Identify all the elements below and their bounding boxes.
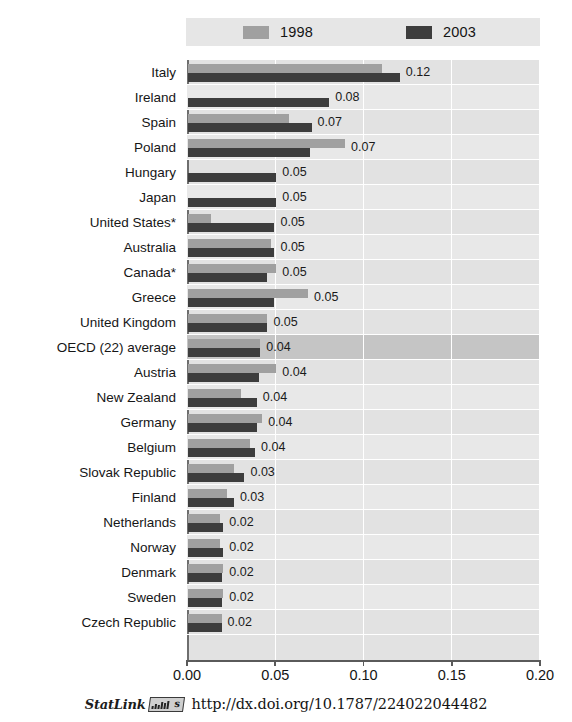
bar-2003: [188, 523, 223, 532]
bar-1998: [188, 589, 223, 598]
bar-value-label: 0.04: [261, 435, 285, 460]
bar-value-label: 0.04: [282, 360, 306, 385]
category-label: United States*: [0, 210, 182, 235]
bar-1998: [188, 239, 271, 248]
category-label: Poland: [0, 135, 182, 160]
category-label: Hungary: [0, 160, 182, 185]
bar-2003: [188, 573, 222, 582]
bar-2003: [188, 123, 312, 132]
x-axis-tick-label: 0.10: [349, 667, 377, 683]
legend-item-1998: 1998: [243, 18, 313, 46]
bar-value-label: 0.02: [228, 610, 252, 635]
bar-1998: [188, 464, 234, 473]
bar-value-label: 0.03: [240, 485, 264, 510]
category-label: Norway: [0, 535, 182, 560]
bar-1998: [188, 564, 223, 573]
category-label: New Zealand: [0, 385, 182, 410]
bar-2003: [188, 298, 274, 307]
bar-value-label: 0.05: [273, 310, 297, 335]
bar-value-label: 0.07: [351, 135, 375, 160]
category-label: Canada*: [0, 260, 182, 285]
bar-2003: [188, 548, 223, 557]
bar-2003: [188, 448, 255, 457]
category-label: Italy: [0, 60, 182, 85]
category-label: Japan: [0, 185, 182, 210]
category-label: Spain: [0, 110, 182, 135]
bar-2003: [188, 198, 276, 207]
bar-value-label: 0.07: [318, 110, 342, 135]
bar-1998: [188, 314, 267, 323]
bar-value-label: 0.03: [250, 460, 274, 485]
bar-2003: [188, 73, 400, 82]
gridline: [451, 60, 452, 660]
category-label: Greece: [0, 285, 182, 310]
bar-2003: [188, 148, 310, 157]
bar-2003: [188, 248, 274, 257]
bar-value-label: 0.05: [280, 210, 304, 235]
x-axis-tick: [274, 660, 276, 666]
bar-value-label: 0.02: [229, 560, 253, 585]
x-axis-tick: [451, 660, 453, 666]
bar-value-label: 0.08: [335, 85, 359, 110]
bar-1998: [188, 264, 276, 273]
category-label: Austria: [0, 360, 182, 385]
bar-1998: [188, 139, 345, 148]
bar-1998: [188, 289, 308, 298]
legend-label-1998: 1998: [280, 24, 313, 40]
bar-1998: [188, 539, 220, 548]
bar-2003: [188, 223, 274, 232]
statlink-label: StatLink: [85, 697, 146, 712]
category-label: Sweden: [0, 585, 182, 610]
category-label: Finland: [0, 485, 182, 510]
bar-1998: [188, 64, 382, 73]
x-axis-tick-label: 0.20: [526, 667, 554, 683]
doi-link[interactable]: http://dx.doi.org/10.1787/224022044482: [191, 696, 487, 712]
legend-label-2003: 2003: [443, 24, 476, 40]
x-axis-tick: [186, 660, 188, 666]
bar-value-label: 0.05: [314, 285, 338, 310]
bar-2003: [188, 598, 222, 607]
legend-swatch-2003: [406, 26, 432, 39]
bar-2003: [188, 473, 244, 482]
category-label: Australia: [0, 235, 182, 260]
x-axis-tick: [539, 660, 541, 666]
bar-1998: [188, 489, 227, 498]
chart-legend: 1998 2003: [186, 18, 540, 46]
bar-value-label: 0.04: [263, 385, 287, 410]
bar-2003: [188, 323, 267, 332]
plot-area: 0.120.080.070.070.050.050.050.050.050.05…: [187, 60, 540, 660]
bar-value-label: 0.12: [406, 60, 430, 85]
bar-1998: [188, 114, 289, 123]
bar-value-label: 0.02: [229, 535, 253, 560]
bar-1998: [188, 439, 250, 448]
bar-2003: [188, 348, 260, 357]
x-axis-tick: [363, 660, 365, 666]
bar-1998: [188, 364, 276, 373]
bar-1998: [188, 214, 211, 223]
bar-value-label: 0.02: [229, 585, 253, 610]
category-label: OECD (22) average: [0, 335, 182, 360]
category-label: Slovak Republic: [0, 460, 182, 485]
bar-value-label: 0.04: [266, 335, 290, 360]
category-label: Netherlands: [0, 510, 182, 535]
statlink-footer: StatLink s http://dx.doi.org/10.1787/224…: [0, 692, 572, 716]
bar-1998: [188, 614, 222, 623]
category-label: Ireland: [0, 85, 182, 110]
bar-value-label: 0.05: [282, 160, 306, 185]
plot-wrapper: ItalyIrelandSpainPolandHungaryJapanUnite…: [0, 60, 572, 665]
legend-item-2003: 2003: [406, 18, 476, 46]
bar-value-label: 0.02: [229, 510, 253, 535]
bar-1998: [188, 339, 260, 348]
bar-1998: [188, 514, 220, 523]
bar-value-label: 0.04: [268, 410, 292, 435]
bar-2003: [188, 623, 222, 632]
x-axis-tick-label: 0.15: [438, 667, 466, 683]
bar-2003: [188, 98, 329, 107]
x-axis-tick-label: 0.00: [173, 667, 201, 683]
legend-swatch-1998: [243, 26, 269, 39]
category-axis-labels: ItalyIrelandSpainPolandHungaryJapanUnite…: [0, 60, 182, 635]
bar-2003: [188, 173, 276, 182]
category-label: Belgium: [0, 435, 182, 460]
bar-2003: [188, 273, 267, 282]
bar-chart-figure: 1998 2003 ItalyIrelandSpainPolandHungary…: [0, 0, 572, 722]
